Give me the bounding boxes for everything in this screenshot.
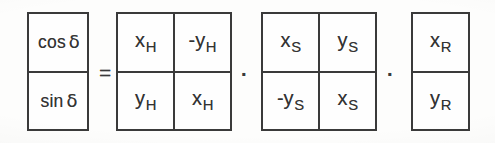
rhs-vector-cell-x-r: xR xyxy=(413,14,468,71)
matrix-h-cell-r2c2: xH xyxy=(173,73,230,130)
equation-figure: cosδ sinδ = xH -yH yH xH xyxy=(0,0,495,143)
matrix-s-cell-r2c1: -yS xyxy=(263,73,318,130)
lhs-cell-sin-delta: sinδ xyxy=(29,73,87,130)
matrix-s-cell-r2c1-label: -yS xyxy=(277,88,304,113)
rhs-vector-cell-y-r-label: yR xyxy=(430,88,452,113)
multiply-operator-1: · xyxy=(241,64,248,84)
matrix-s: xS yS -yS xS xyxy=(261,12,377,131)
rhs-vector-cell-y-r: yR xyxy=(413,73,468,130)
matrix-h-cell-r2c2-label: xH xyxy=(192,88,214,113)
multiply-operator-2: · xyxy=(387,64,394,84)
matrix-h-cell-r2c1-label: yH xyxy=(135,88,157,113)
matrix-s-cell-r2c2-label: xS xyxy=(337,88,358,113)
matrix-s-cell-r1c2-label: yS xyxy=(337,30,358,55)
lhs-row-2: sinδ xyxy=(29,71,87,130)
matrix-h-cell-r2c1: yH xyxy=(118,73,173,130)
lhs-cell-cos-delta: cosδ xyxy=(29,14,87,71)
lhs-cell-sin-delta-label: sinδ xyxy=(38,92,77,111)
matrix-h-cell-r1c1: xH xyxy=(118,14,173,71)
matrix-h-row-1: xH -yH xyxy=(118,14,230,71)
matrix-h-cell-r1c2-label: -yH xyxy=(188,30,216,55)
matrix-h-cell-r1c1-label: xH xyxy=(135,30,157,55)
matrix-s-cell-r1c1-label: xS xyxy=(280,30,301,55)
lhs-direction-vector: cosδ sinδ xyxy=(27,12,89,131)
rhs-vector-row-1: xR xyxy=(413,14,468,71)
matrix-s-cell-r1c1: xS xyxy=(263,14,318,71)
equals-operator: = xyxy=(99,62,111,83)
lhs-cell-cos-delta-label: cosδ xyxy=(36,33,80,52)
matrix-s-row-2: -yS xS xyxy=(263,71,375,130)
rhs-vector-cell-x-r-label: xR xyxy=(430,30,452,55)
matrix-h: xH -yH yH xH xyxy=(116,12,232,131)
matrix-h-row-2: yH xH xyxy=(118,71,230,130)
matrix-s-cell-r1c2: yS xyxy=(318,14,375,71)
rhs-vector-r: xR yR xyxy=(411,12,470,131)
matrix-s-cell-r2c2: xS xyxy=(318,73,375,130)
lhs-row-1: cosδ xyxy=(29,14,87,71)
matrix-h-cell-r1c2: -yH xyxy=(173,14,230,71)
matrix-s-row-1: xS yS xyxy=(263,14,375,71)
rhs-vector-row-2: yR xyxy=(413,71,468,130)
